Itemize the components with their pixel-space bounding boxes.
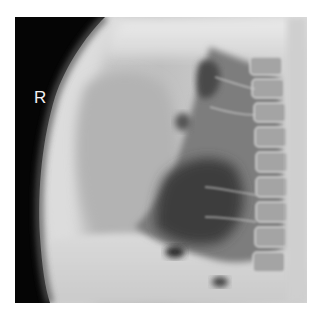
side-marker-label: R <box>34 89 46 106</box>
radiograph-image: R <box>15 17 307 303</box>
radiograph-svg <box>15 17 307 303</box>
